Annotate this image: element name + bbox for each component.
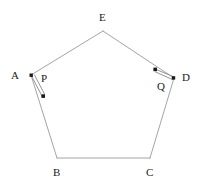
vector-p-tail-dot [30,74,33,77]
edge-b-a [31,75,57,158]
vertex-label-e: E [99,12,106,23]
vector-p-head-arrowhead [41,94,45,98]
edge-e-d [103,31,174,78]
vertex-label-d: D [182,72,190,83]
edge-a-e [31,31,103,75]
pentagon-edges [31,31,174,158]
vector-label-q: Q [157,81,165,92]
vertex-label-a: A [11,70,19,81]
vector-label-p: P [41,73,47,84]
vertex-label-c: C [146,167,153,178]
geometry-figure: A B C D E P Q [0,0,203,188]
vector-q-tail-dot [172,76,175,79]
pentagon-diagram-svg [0,0,203,188]
vertex-label-b: B [53,167,60,178]
vector-q-head-arrowhead [153,68,157,72]
vector-q [153,68,175,80]
